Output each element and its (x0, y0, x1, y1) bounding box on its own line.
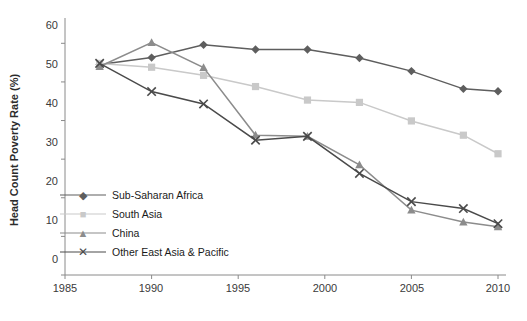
legend-key-triangle-icon: ▲ (60, 227, 106, 239)
legend-key-cross-icon: ✕ (60, 246, 106, 258)
series-1 (96, 60, 502, 158)
chart-legend: ◆ Sub-Saharan Africa ■ South Asia ▲ Chin… (60, 185, 229, 261)
legend-item-sub-saharan-africa: ◆ Sub-Saharan Africa (60, 185, 229, 204)
legend-item-other-east-asia-pacific: ✕ Other East Asia & Pacific (60, 242, 229, 261)
legend-key-square-icon: ■ (60, 208, 106, 220)
legend-item-south-asia: ■ South Asia (60, 204, 229, 223)
plot-area (0, 0, 527, 321)
legend-item-china: ▲ China (60, 223, 229, 242)
legend-label: Sub-Saharan Africa (112, 189, 203, 201)
legend-label: South Asia (112, 208, 162, 220)
legend-label: Other East Asia & Pacific (112, 246, 229, 258)
poverty-rate-line-chart: Head Count Poverty Rate (%) 60 50 40 30 … (0, 0, 527, 321)
legend-key-diamond-icon: ◆ (60, 189, 106, 201)
legend-label: China (112, 227, 139, 239)
